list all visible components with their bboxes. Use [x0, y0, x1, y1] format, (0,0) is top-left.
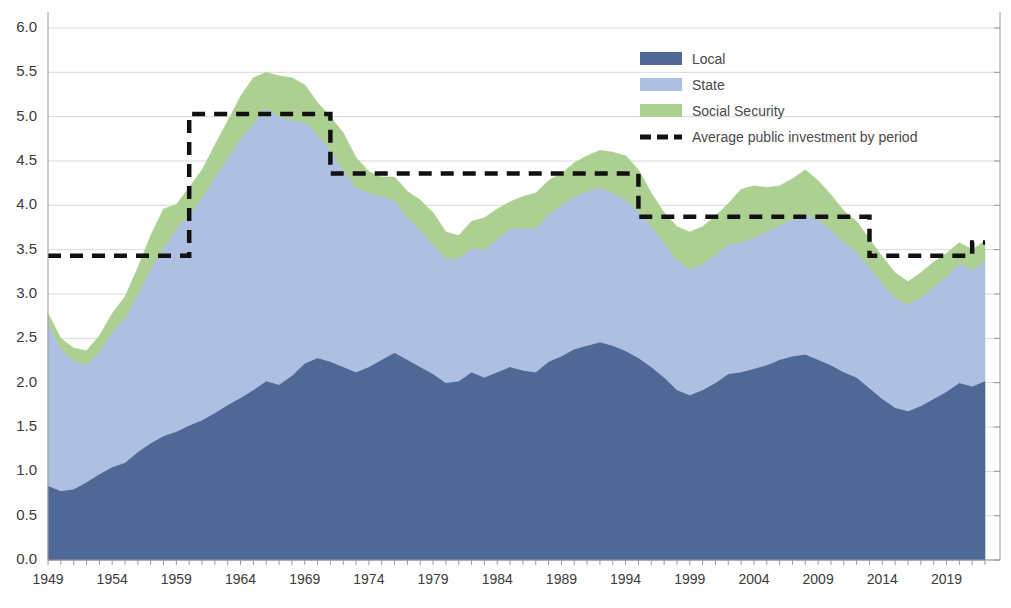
y-tick-label: 2.0: [16, 373, 37, 390]
x-tick-label: 1969: [289, 571, 320, 587]
y-tick-label: 0.0: [16, 550, 37, 567]
y-tick-label: 4.5: [16, 151, 37, 168]
x-tick-label: 1959: [161, 571, 192, 587]
legend-label-average-public-investment-by-period: Average public investment by period: [692, 129, 917, 145]
y-tick-label: 1.5: [16, 417, 37, 434]
legend-label-local: Local: [692, 51, 725, 67]
x-tick-label: 1974: [353, 571, 384, 587]
x-tick-label: 1999: [674, 571, 705, 587]
x-tick-label: 1984: [482, 571, 513, 587]
x-tick-label: 1954: [97, 571, 128, 587]
x-axis-tick-labels: 1949195419591964196919741979198419891994…: [32, 571, 962, 587]
y-tick-label: 2.5: [16, 328, 37, 345]
legend-swatch-social-security: [640, 104, 682, 117]
x-tick-label: 1979: [417, 571, 448, 587]
y-tick-label: 6.0: [16, 18, 37, 35]
legend-swatch-state: [640, 78, 682, 91]
x-tick-label: 2019: [931, 571, 962, 587]
y-tick-label: 5.5: [16, 62, 37, 79]
y-tick-label: 3.5: [16, 240, 37, 257]
y-tick-label: 1.0: [16, 461, 37, 478]
x-tick-label: 1989: [546, 571, 577, 587]
stacked-area-chart: 0.00.51.01.52.02.53.03.54.04.55.05.56.0 …: [0, 0, 1011, 608]
y-tick-label: 0.5: [16, 506, 37, 523]
y-tick-label: 4.0: [16, 195, 37, 212]
x-tick-label: 2004: [738, 571, 769, 587]
x-tick-label: 1994: [610, 571, 641, 587]
legend-swatch-local: [640, 52, 682, 65]
x-tick-label: 1949: [32, 571, 63, 587]
x-tick-label: 1964: [225, 571, 256, 587]
y-tick-label: 5.0: [16, 107, 37, 124]
chart-figure: 0.00.51.01.52.02.53.03.54.04.55.05.56.0 …: [0, 0, 1011, 608]
x-tick-label: 2009: [803, 571, 834, 587]
legend-label-state: State: [692, 77, 725, 93]
y-tick-label: 3.0: [16, 284, 37, 301]
x-tick-label: 2014: [867, 571, 898, 587]
legend-label-social-security: Social Security: [692, 103, 785, 119]
